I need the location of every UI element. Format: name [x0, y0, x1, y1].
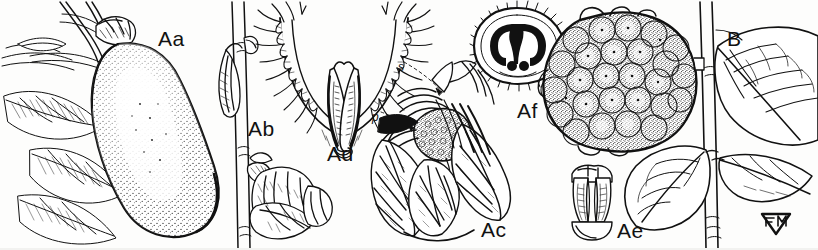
callout-label-p: p: [372, 111, 379, 123]
plate-artwork: [0, 0, 818, 250]
panel-label-af: Af: [517, 100, 538, 121]
panel-ad-artwork: [254, 2, 434, 158]
panel-label-aa: Aa: [158, 28, 185, 49]
panel-label-ac: Ac: [481, 219, 507, 240]
panel-label-ae: Ae: [617, 220, 644, 241]
panel-label-ab: Ab: [248, 118, 275, 139]
panel-b-fruit-artwork: [538, 7, 696, 156]
panel-ae-artwork: [572, 165, 612, 240]
panel-aa-artwork: [2, 2, 219, 244]
panel-ab-artwork: [219, 2, 332, 248]
signature-monogram: [762, 214, 790, 234]
panel-label-ad: Ad: [327, 143, 354, 164]
illustration-plate: Aa Ab Ad Ac Af Ae B s p: [0, 0, 818, 250]
callout-label-s: s: [398, 61, 404, 73]
panel-label-b: B: [727, 28, 742, 49]
